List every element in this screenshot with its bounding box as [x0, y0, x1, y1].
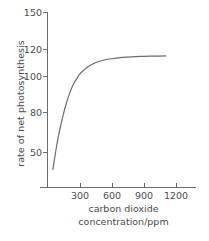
series-line-net-photosynthesis: [53, 56, 166, 169]
photosynthesis-co2-chart: rate of net photosynthesis 150 120 100 8…: [0, 0, 209, 241]
y-axis-ticks: [43, 13, 48, 153]
x-axis-ticks: [48, 183, 177, 188]
x-axis-title-line-2: concentration/ppm: [38, 216, 209, 229]
x-axis-title: carbon dioxide concentration/ppm: [38, 203, 209, 228]
x-axis-title-line-1: carbon dioxide: [38, 203, 209, 216]
